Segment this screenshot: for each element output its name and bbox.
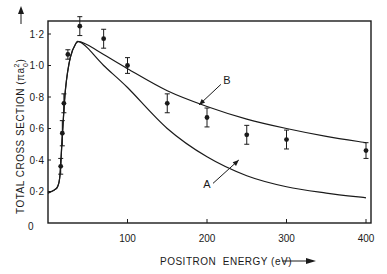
chart-canvas: 0·20·40·60·81·01·2 100200300400 AB 0 POS… xyxy=(0,0,387,274)
y-axis-arrow-icon xyxy=(18,6,24,14)
y-tick-label: 0·8 xyxy=(30,92,45,103)
data-marker xyxy=(65,52,70,57)
x-tick-label: 200 xyxy=(199,233,216,244)
curve-label-a: A xyxy=(203,178,211,190)
data-marker xyxy=(284,137,289,142)
curve-label-b: B xyxy=(223,74,230,86)
x-tick-label: 300 xyxy=(278,233,295,244)
data-marker xyxy=(60,131,65,136)
data-point xyxy=(125,58,130,74)
data-marker xyxy=(165,101,170,106)
data-point xyxy=(244,125,249,144)
data-point xyxy=(364,143,369,159)
y-tick-label: 0·2 xyxy=(30,186,45,197)
data-marker xyxy=(101,36,106,41)
y-axis-label-close: ) xyxy=(15,59,26,63)
x-tick-label: 100 xyxy=(119,233,136,244)
data-marker xyxy=(244,132,249,137)
data-point xyxy=(61,94,66,113)
x-tick-label: 400 xyxy=(358,233,375,244)
x-axis-arrow-icon xyxy=(306,258,316,264)
y-tick-label: 1·2 xyxy=(30,29,45,40)
data-marker xyxy=(205,115,210,120)
y-tick-label: 1·0 xyxy=(30,60,45,71)
y-tick-label: 0·6 xyxy=(30,123,45,134)
data-point xyxy=(284,130,289,149)
data-point xyxy=(205,108,210,127)
x-axis-title: POSITRON ENERGY (eV) xyxy=(160,256,316,267)
data-marker xyxy=(62,101,67,106)
x-axis-label: POSITRON ENERGY (eV) xyxy=(160,256,292,267)
y-tick-label: 0·4 xyxy=(30,155,45,166)
data-point xyxy=(58,158,63,174)
data-marker xyxy=(58,164,63,169)
y-axis-label-main: TOTAL CROSS SECTION (πa xyxy=(15,67,26,214)
data-point xyxy=(60,121,65,146)
data-point xyxy=(77,17,82,36)
data-marker xyxy=(77,24,82,29)
origin-label: 0 xyxy=(28,221,34,232)
y-axis-label: TOTAL CROSS SECTION (πa20) xyxy=(13,59,29,214)
curve-annotations: AB xyxy=(199,74,239,190)
data-point xyxy=(101,29,106,48)
data-marker xyxy=(364,148,369,153)
data-marker xyxy=(125,63,130,68)
experimental-points xyxy=(58,17,368,175)
y-axis-label-sup: 2 xyxy=(13,63,20,67)
data-point xyxy=(165,94,170,113)
y-axis-title: TOTAL CROSS SECTION (πa20) xyxy=(13,6,29,214)
